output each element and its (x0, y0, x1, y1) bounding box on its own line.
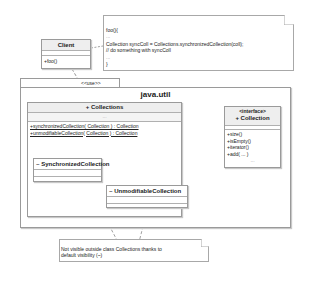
synchronized-collection-name: ~ SynchronizedCollection (34, 159, 101, 169)
visibility-note[interactable]: Not visible outside class Collections th… (59, 239, 209, 262)
code-note-line-5: ... (106, 54, 110, 61)
code-note-line-4: // do something with syncColl (106, 47, 171, 54)
unmodifiable-collection-class[interactable]: ~ UnmodifiableCollection (106, 185, 188, 208)
note-fold-icon (284, 15, 294, 25)
interface-name: + Collection (225, 115, 280, 122)
unmodifiable-collection-name: ~ UnmodifiableCollection (107, 186, 187, 196)
collection-interface[interactable]: <interface> + Collection +size() +isEmpt… (224, 106, 281, 168)
client-class[interactable]: Client +foo() (41, 39, 91, 69)
collections-class-name: + Collections (28, 103, 181, 112)
code-note-line-2: ... (106, 33, 110, 40)
code-note[interactable]: foo(){ ... Collection syncColl = Collect… (103, 15, 294, 71)
interface-more: ... (227, 157, 278, 164)
collections-attributes: ... (28, 112, 181, 121)
note-fold-icon (201, 239, 209, 247)
visibility-note-line-2: default visibility (~) (61, 252, 102, 259)
synchronized-collection-class[interactable]: ~ SynchronizedCollection (33, 158, 102, 182)
use-stereotype-label: <<use>> (81, 80, 101, 87)
client-class-name: Client (42, 40, 90, 50)
client-operation: +foo() (42, 55, 90, 66)
package-name: java.util (21, 90, 290, 99)
code-note-line-6: } (106, 61, 108, 68)
unmodifiable-collection-operation: +unmodifiableCollection( Collection ) : … (30, 130, 179, 137)
